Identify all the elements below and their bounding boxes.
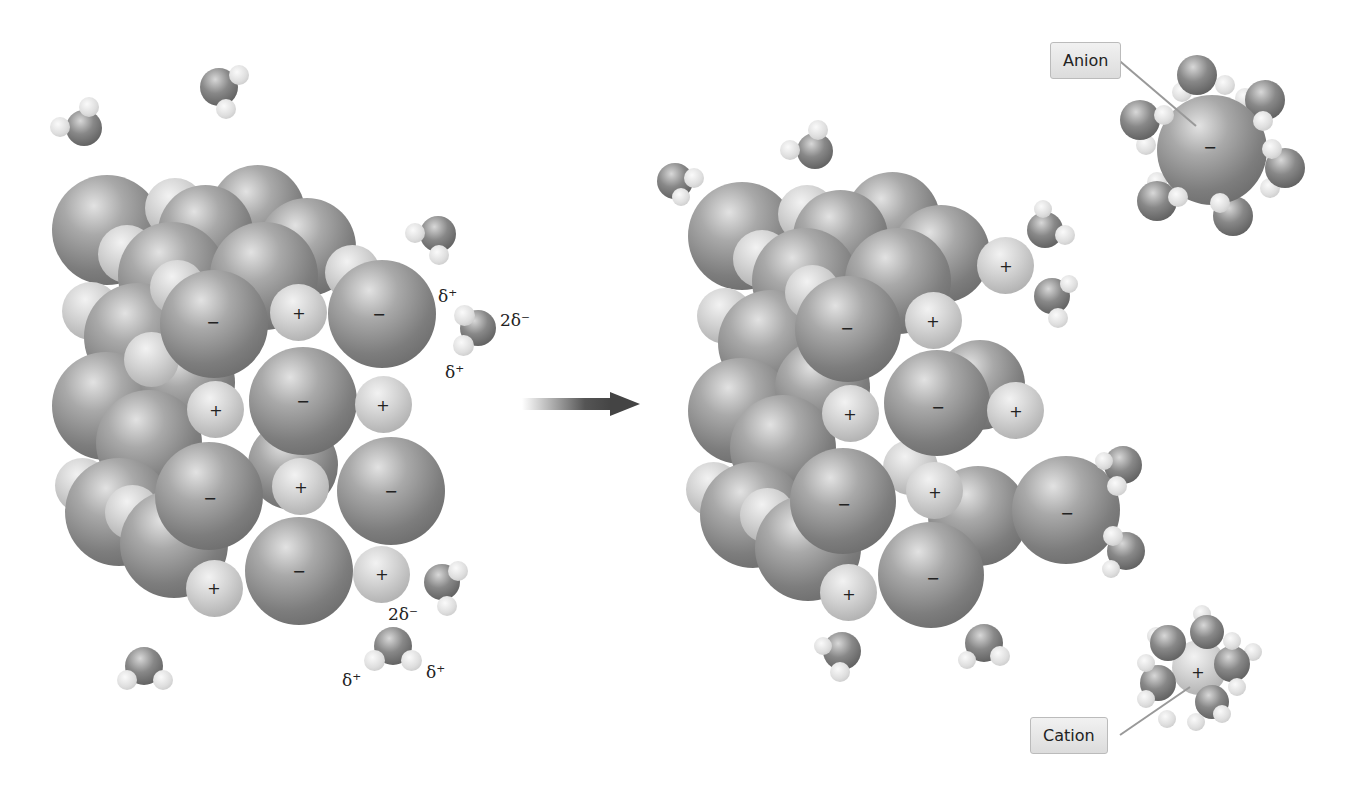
cation-callout: Cation — [1030, 717, 1108, 754]
anion-callout: Anion — [1050, 42, 1121, 79]
callout-leader-lines — [0, 0, 1360, 803]
